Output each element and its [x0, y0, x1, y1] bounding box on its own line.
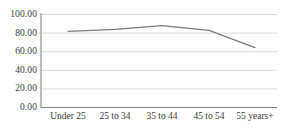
x-tick-label-25-to-34: 25 to 34 — [88, 111, 142, 122]
x-axis-labels: Under 25 25 to 34 35 to 44 45 to 54 55 y… — [0, 0, 287, 134]
x-tick-label-35-to-44: 35 to 44 — [135, 111, 189, 122]
line-chart: 100.00 80.00 60.00 40.00 20.00 0.00 Unde… — [0, 0, 287, 134]
x-tick-label-under-25: Under 25 — [41, 111, 95, 122]
x-tick-label-55-years-plus: 55 years+ — [226, 111, 284, 122]
